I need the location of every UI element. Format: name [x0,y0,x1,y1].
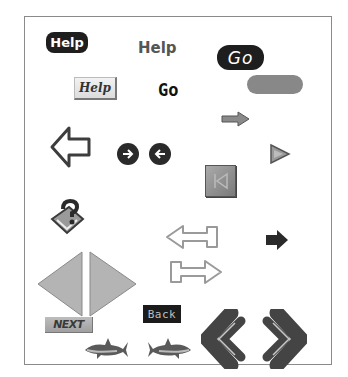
help-label: Help [79,81,111,95]
go-dark-pill-button[interactable]: Go [217,45,264,70]
double-chevron-left-icon[interactable] [201,309,251,369]
back-button[interactable]: Back [143,305,181,323]
next-label: NEXT [53,318,84,331]
help-dark-pill-button[interactable]: Help [46,32,88,53]
right-outline-long-arrow-icon[interactable] [169,259,223,285]
shark-right-icon[interactable] [147,337,193,361]
go-bold-button[interactable]: Go [158,80,178,100]
large-left-triangle-icon[interactable] [37,251,83,317]
shark-left-icon[interactable] [83,337,129,361]
circle-left-arrow-icon[interactable] [149,143,171,165]
button-collection-panel: Help Help Go Help Go [24,16,332,365]
help-question-book-icon[interactable] [49,199,87,235]
small-right-arrow-icon[interactable] [221,111,251,127]
back-label: Back [148,308,177,321]
help-label: Help [50,35,83,50]
left-outline-arrow-icon[interactable] [49,125,93,169]
double-chevron-right-icon[interactable] [257,309,307,369]
next-button[interactable]: NEXT [45,317,93,333]
help-label: Help [138,39,177,57]
left-outline-long-arrow-icon[interactable] [165,224,219,250]
circle-right-arrow-icon[interactable] [117,143,139,165]
large-right-triangle-icon[interactable] [89,251,137,317]
skip-to-start-button[interactable] [205,165,236,197]
gray-pill-button[interactable] [247,75,303,94]
skip-to-start-icon [211,171,231,191]
dark-right-arrow-icon[interactable] [265,229,289,251]
help-text-button[interactable]: Help [138,39,177,57]
help-3d-button[interactable]: Help [74,77,117,100]
go-label: Go [228,48,254,68]
play-triangle-icon[interactable] [269,143,291,165]
go-label: Go [158,80,178,100]
